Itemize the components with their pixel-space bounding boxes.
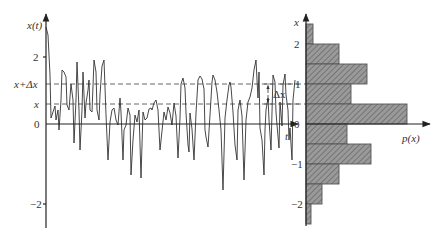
px-axis-label: p(x): [401, 132, 420, 145]
right-tick-label-minus-1: −1: [291, 158, 303, 170]
right-y-axis-label: x: [293, 16, 299, 28]
bin-1.5-to-2: [306, 44, 339, 64]
delta-x-label: Δx: [273, 88, 286, 100]
random-signal-histogram-figure: x(t) 2 x+Δx x 0 −2 t Δx: [0, 0, 441, 242]
time-signal-plot: x(t) 2 x+Δx x 0 −2 t Δx: [13, 14, 300, 228]
bin-minus-1-to-minus-0.5: [306, 144, 371, 164]
bin-2-to-2.5: [306, 24, 313, 44]
right-tick-label-1: 1: [295, 78, 301, 90]
bin-minus-2-to-minus-1.5: [306, 184, 322, 204]
left-tick-label-0: 0: [34, 118, 40, 130]
bin-0-to-0.5: [306, 104, 407, 124]
bin-minus-2.5-to-minus-2: [306, 204, 311, 224]
left-tick-label-xdx: x+Δx: [13, 78, 38, 90]
left-y-axis-label: x(t): [26, 19, 43, 32]
bin-minus-1.5-to-minus-1: [306, 164, 339, 184]
right-tick-label-0: 0: [294, 118, 300, 130]
right-tick-label-2: 2: [294, 38, 300, 50]
bin-0.5-to-1: [306, 84, 351, 104]
bin-minus-0.5-to-0: [306, 124, 347, 144]
bin-1-to-1.5: [306, 64, 367, 84]
signal-trace: [46, 27, 295, 190]
left-tick-label-2: 2: [33, 51, 39, 63]
histogram-plot: x 2 1 0 −1 −2 p(x): [280, 14, 430, 226]
left-tick-label-x: x: [33, 98, 39, 110]
right-tick-label-minus-2: −2: [291, 198, 303, 210]
left-tick-label-minus-2: −2: [30, 198, 42, 210]
